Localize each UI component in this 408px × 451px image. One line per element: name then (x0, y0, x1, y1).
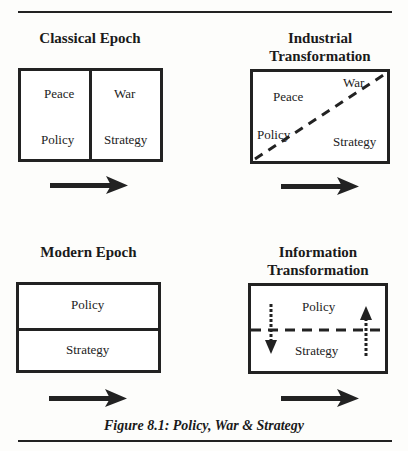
strategy-label: Strategy (295, 343, 338, 359)
classical-epoch-title: Classical Epoch (20, 29, 160, 47)
down-arrow-dotted-icon (265, 304, 277, 354)
war-label: War (114, 86, 135, 102)
modern-epoch-box: Policy Strategy (16, 282, 161, 373)
modern-epoch-title: Modern Epoch (17, 243, 160, 261)
horizontal-divider (19, 328, 158, 331)
right-arrow-icon (281, 389, 359, 407)
classical-epoch-box: Peace War Policy Strategy (18, 68, 163, 162)
policy-label: Policy (257, 127, 290, 143)
title-line: Industrial (250, 29, 390, 47)
peace-label: Peace (44, 86, 74, 102)
strategy-label: Strategy (333, 134, 376, 150)
war-label: War (343, 75, 364, 91)
strategy-label: Strategy (66, 342, 109, 358)
information-transformation-title: Information Transformation (248, 243, 388, 279)
up-arrow-dotted-icon (360, 306, 372, 356)
top-rule (18, 11, 392, 13)
right-arrow-icon (281, 177, 359, 195)
figure-caption: Figure 8.1: Policy, War & Strategy (0, 418, 408, 434)
right-arrow-icon (50, 176, 128, 194)
strategy-label: Strategy (104, 132, 147, 148)
peace-label: Peace (273, 89, 303, 105)
industrial-transformation-box: Peace War Policy Strategy (250, 69, 390, 164)
vertical-divider (89, 71, 92, 159)
information-transformation-box: Policy Strategy (248, 283, 388, 374)
policy-label: Policy (302, 299, 335, 315)
policy-label: Policy (41, 132, 74, 148)
title-line: Transformation (250, 47, 390, 65)
title-line: Transformation (248, 261, 388, 279)
title-line: Information (248, 243, 388, 261)
policy-label: Policy (71, 297, 104, 313)
bottom-rule (18, 440, 392, 442)
right-arrow-icon (49, 389, 127, 407)
industrial-transformation-title: Industrial Transformation (250, 29, 390, 65)
